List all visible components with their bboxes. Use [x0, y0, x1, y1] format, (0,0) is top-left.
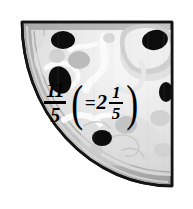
pizza-fraction-figure: 11 5 ( = 2 1 5 )	[0, 0, 193, 209]
olive-bottom	[92, 130, 112, 146]
olive-top-left	[51, 31, 75, 49]
pizza-illustration	[0, 0, 193, 209]
